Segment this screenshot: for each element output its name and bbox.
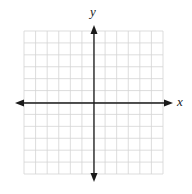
x-axis-label: x (177, 95, 183, 108)
y-axis-up-arrow-icon (91, 25, 98, 34)
y-axis-down-arrow-icon (91, 173, 98, 182)
y-axis-label: y (90, 5, 96, 18)
coordinate-plane: y x (0, 0, 192, 194)
x-axis-right-arrow-icon (164, 100, 173, 107)
axes (15, 25, 173, 182)
coordinate-grid-graphic (0, 0, 192, 194)
x-axis-left-arrow-icon (15, 100, 24, 107)
